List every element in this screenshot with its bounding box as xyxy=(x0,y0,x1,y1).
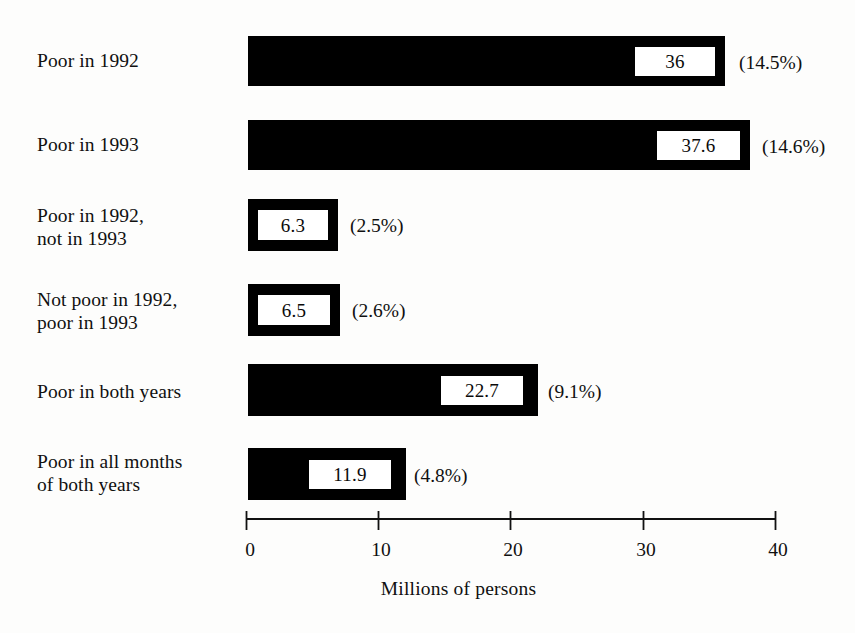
value-label: 11.9 xyxy=(333,465,366,484)
value-label: 22.7 xyxy=(465,381,499,400)
axis-tick-label-0: 0 xyxy=(245,540,255,560)
axis-tick-label-40: 40 xyxy=(768,540,788,560)
value-box: 6.3 xyxy=(257,209,329,241)
row-label: Poor in 1992 xyxy=(37,49,139,72)
value-label: 37.6 xyxy=(681,136,715,155)
percent-label: (14.6%) xyxy=(762,137,825,157)
value-box: 11.9 xyxy=(308,459,392,490)
row-label: Poor in all months of both years xyxy=(37,450,182,496)
axis-title-text: Millions of persons xyxy=(381,578,536,600)
row-label: Poor in 1992, not in 1993 xyxy=(37,204,144,250)
value-label: 6.3 xyxy=(281,216,305,235)
row-label: Poor in 1993 xyxy=(37,133,139,156)
axis-tick-label-30: 30 xyxy=(636,540,656,560)
axis-title: Millions of persons xyxy=(0,578,855,600)
percent-label: (14.5%) xyxy=(739,53,802,73)
row-label: Poor in both years xyxy=(37,380,181,403)
value-label: 6.5 xyxy=(282,301,306,320)
percent-label: (9.1%) xyxy=(548,382,602,402)
axis-tick-label-10: 10 xyxy=(371,540,391,560)
bar-chart: Poor in 1992 36 (14.5%) Poor in 1993 37.… xyxy=(0,0,855,633)
row-label: Not poor in 1992, poor in 1993 xyxy=(37,288,177,334)
value-box: 36 xyxy=(634,46,716,77)
value-box: 22.7 xyxy=(440,375,524,406)
value-box: 6.5 xyxy=(257,294,331,326)
percent-label: (2.6%) xyxy=(352,301,406,321)
axis-tick-label-20: 20 xyxy=(503,540,523,560)
value-box: 37.6 xyxy=(656,130,741,161)
percent-label: (4.8%) xyxy=(414,466,468,486)
value-label: 36 xyxy=(665,52,684,71)
percent-label: (2.5%) xyxy=(350,216,404,236)
